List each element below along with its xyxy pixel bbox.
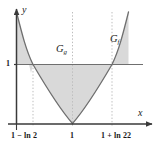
curve-label-f: Gf [110,34,120,45]
y-axis-label: y [22,5,26,15]
curve-label-f-letter: G [110,33,118,44]
curve-label-f-subscript: f [118,38,120,46]
curve-label-g-letter: G [56,43,64,54]
x-tick-label-left: 1 − ln 2 [11,132,37,140]
y-tick-label-1: 1 [6,60,10,68]
curve-label-g-subscript: g [64,48,68,56]
math-graph-figure: y x 1 1 − ln 2 1 1 + ln 22 Gg Gf [0,0,161,153]
curve-label-g: Gg [56,44,67,55]
x-tick-label-center: 1 [70,132,74,140]
x-tick-label-right: 1 + ln 22 [101,132,131,140]
x-axis-label: x [138,108,142,118]
